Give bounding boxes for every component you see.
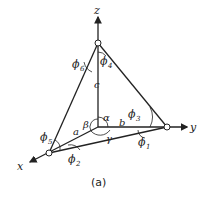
vertex-x	[46, 150, 52, 156]
svg-text:ϕ: ϕ	[68, 153, 76, 166]
x-axis-label: x	[17, 160, 24, 173]
phi4-label: ϕ 4	[100, 55, 112, 70]
vertex-y	[164, 124, 170, 130]
phi6-label: ϕ 6	[72, 58, 85, 73]
svg-text:ϕ: ϕ	[138, 136, 146, 149]
svg-text:5: 5	[48, 138, 53, 146]
edge-label-b: b	[119, 117, 125, 128]
edge-label-a: a	[73, 126, 79, 137]
svg-text:3: 3	[136, 115, 141, 123]
vertex-top	[95, 40, 101, 46]
phi1-label: ϕ 1	[138, 136, 150, 151]
phi3-label: ϕ 3	[128, 108, 141, 123]
svg-text:ϕ: ϕ	[128, 108, 136, 121]
svg-text:2: 2	[75, 160, 81, 168]
angle-label-beta: β	[82, 119, 89, 130]
svg-text:4: 4	[107, 62, 112, 70]
tetrahedron-diagram: z y x c a b α β γ ϕ 6 ϕ 4 ϕ 3 ϕ 1 ϕ 5 ϕ …	[0, 0, 210, 200]
svg-text:ϕ: ϕ	[40, 131, 48, 144]
svg-text:6: 6	[80, 65, 85, 73]
svg-text:ϕ: ϕ	[72, 58, 80, 71]
edge-label-c: c	[94, 79, 100, 90]
svg-text:ϕ: ϕ	[100, 55, 108, 68]
figure-caption: (a)	[91, 176, 106, 189]
angle-label-gamma: γ	[106, 133, 112, 144]
z-axis-label: z	[93, 4, 100, 17]
phi2-label: ϕ 2	[68, 153, 81, 168]
y-axis-label: y	[189, 121, 197, 134]
phi5-label: ϕ 5	[40, 131, 53, 146]
svg-text:1: 1	[146, 143, 150, 151]
angle-label-alpha: α	[103, 112, 110, 123]
phi3-arc	[150, 107, 152, 127]
